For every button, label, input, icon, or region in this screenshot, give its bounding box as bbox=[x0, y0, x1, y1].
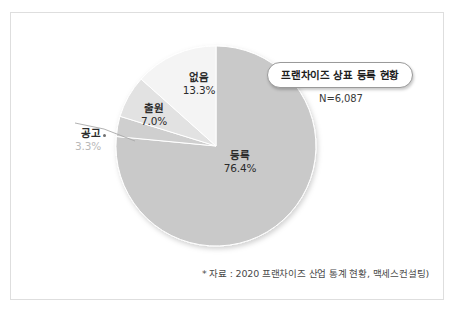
pie-label-none: 없음 13.3% bbox=[169, 71, 229, 97]
pie-label-registered-name: 등록 bbox=[209, 149, 271, 162]
pie-label-notice: 공고 3.3% bbox=[41, 127, 101, 153]
source-footnote: * 자료 : 2020 프랜차이즈 산업 통계 현황, 맥세스컨설팅) bbox=[11, 266, 429, 280]
pie-label-notice-name: 공고 bbox=[41, 127, 101, 140]
pie-label-none-name: 없음 bbox=[169, 71, 229, 84]
pie-label-notice-value: 3.3% bbox=[41, 140, 101, 153]
notice-leader-dot-icon bbox=[103, 134, 106, 137]
pie-label-registered: 등록 76.4% bbox=[209, 149, 271, 175]
chart-card: 없음 13.3% 출원 7.0% 등록 76.4% 공고 3.3% 프랜차이즈 … bbox=[10, 12, 444, 300]
pie-chart-plot-area: 없음 13.3% 출원 7.0% 등록 76.4% 공고 3.3% 프랜차이즈 … bbox=[11, 13, 443, 299]
pie-label-application-name: 출원 bbox=[126, 102, 182, 115]
chart-title-badge: 프랜차이즈 상표 등록 현황 bbox=[267, 62, 413, 88]
pie-label-none-value: 13.3% bbox=[169, 84, 229, 97]
pie-label-application: 출원 7.0% bbox=[126, 102, 182, 128]
sample-size-label: N=6,087 bbox=[267, 93, 415, 104]
pie-label-registered-value: 76.4% bbox=[209, 162, 271, 175]
pie-label-application-value: 7.0% bbox=[126, 115, 182, 128]
